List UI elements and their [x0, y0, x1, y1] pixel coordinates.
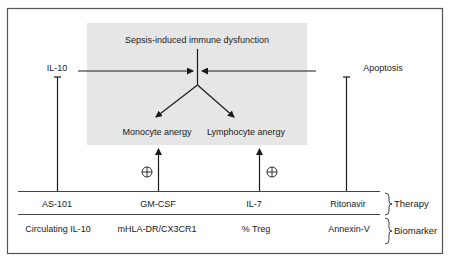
therapy-cell: AS-101: [42, 199, 72, 209]
biomarker-cell: mHLA-DR/CX3CR1: [117, 224, 196, 234]
panel-title: Sepsis-induced immune dysfunction: [125, 35, 269, 45]
biomarker-cell: Circulating IL-10: [25, 224, 91, 234]
plus-circle-icon: [142, 167, 152, 177]
therapy-cell: GM-CSF: [140, 199, 176, 209]
therapy-cell: Ritonavir: [330, 199, 366, 209]
input-label-il10: IL-10: [47, 63, 68, 73]
outcome-lymphocyte-anergy: Lymphocyte anergy: [207, 127, 286, 137]
sepsis-diagram: Sepsis-induced immune dysfunction IL-10 …: [0, 0, 452, 261]
input-label-apoptosis: Apoptosis: [363, 63, 403, 73]
outcome-monocyte-anergy: Monocyte anergy: [122, 127, 192, 137]
biomarker-cell: Annexin-V: [328, 224, 370, 234]
category-label-therapy: Therapy: [394, 198, 429, 209]
therapy-cell: IL-7: [246, 199, 262, 209]
category-label-biomarker: Biomarker: [394, 225, 437, 236]
plus-circle-icon: [267, 167, 277, 177]
biomarker-cell: % Treg: [242, 224, 271, 234]
